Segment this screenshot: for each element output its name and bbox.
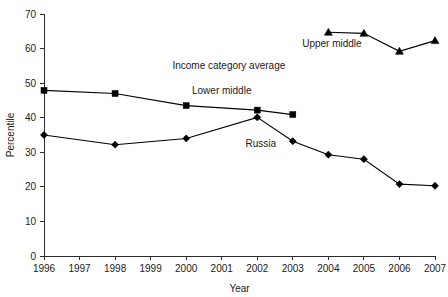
series-russia <box>40 114 438 190</box>
x-tick-label: 2000 <box>175 263 198 274</box>
y-tick-label: 40 <box>25 112 37 123</box>
y-tick-label: 0 <box>30 251 36 262</box>
x-tick-label: 2005 <box>353 263 376 274</box>
x-tick-label: 1997 <box>68 263 91 274</box>
data-point-triangle <box>324 28 332 35</box>
annotation-income-category-average: Income category average <box>172 60 285 71</box>
data-point-diamond <box>183 135 190 142</box>
series-lower-middle <box>41 87 296 117</box>
data-point-diamond <box>111 141 118 148</box>
x-tick-label: 2007 <box>424 263 447 274</box>
series-line <box>44 117 435 185</box>
data-point-diamond <box>396 180 403 187</box>
data-point-square <box>290 112 296 118</box>
x-tick-label: 2006 <box>388 263 411 274</box>
line-chart: 010203040506070 199619971998199920002001… <box>0 0 448 297</box>
data-point-diamond <box>325 151 332 158</box>
annotations-group: Income category averageUpper middleLower… <box>172 38 362 149</box>
y-tick-label: 70 <box>25 9 37 20</box>
data-point-square <box>112 91 118 97</box>
x-axis-title: Year <box>229 283 250 294</box>
x-tick-label: 2003 <box>282 263 305 274</box>
data-point-diamond <box>431 182 438 189</box>
data-point-diamond <box>360 156 367 163</box>
y-tick-label: 10 <box>25 216 37 227</box>
x-tick-label: 2001 <box>211 263 234 274</box>
data-point-square <box>41 87 47 93</box>
annotation-russia: Russia <box>246 138 277 149</box>
annotation-lower-middle: Lower middle <box>192 85 252 96</box>
y-tick-label: 60 <box>25 43 37 54</box>
x-axis-ticks: 1996199719981999200020012002200320042005… <box>33 256 447 274</box>
y-tick-label: 50 <box>25 78 37 89</box>
data-series-group <box>40 28 439 189</box>
x-tick-label: 1999 <box>140 263 163 274</box>
data-point-square <box>254 107 260 113</box>
y-tick-label: 30 <box>25 147 37 158</box>
y-tick-label: 20 <box>25 181 37 192</box>
axes <box>44 14 435 256</box>
y-axis-title: Percentile <box>5 112 16 157</box>
data-point-diamond <box>289 138 296 145</box>
x-tick-label: 2004 <box>317 263 340 274</box>
data-point-diamond <box>40 131 47 138</box>
chart-container: 010203040506070 199619971998199920002001… <box>0 0 448 297</box>
x-tick-label: 1998 <box>104 263 127 274</box>
x-tick-label: 2002 <box>246 263 269 274</box>
data-point-square <box>183 103 189 109</box>
data-point-triangle <box>431 37 439 44</box>
annotation-upper-middle: Upper middle <box>302 38 362 49</box>
x-tick-label: 1996 <box>33 263 56 274</box>
data-point-diamond <box>254 114 261 121</box>
